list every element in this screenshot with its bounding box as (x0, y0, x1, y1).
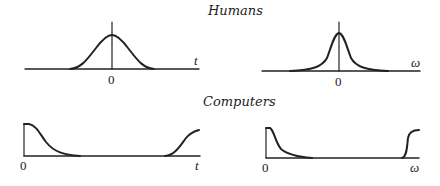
computers-time-origin-label: 0 (20, 158, 27, 174)
computers-time-plot (24, 124, 200, 156)
humans-freq-origin-label: 0 (335, 74, 342, 90)
humans-time-origin-label: 0 (108, 72, 115, 88)
computers-time-axis-label: t (195, 158, 199, 174)
humans-freq-plot (262, 22, 420, 71)
computers-title: Computers (203, 94, 276, 109)
computers-freq-curve-right (402, 130, 419, 158)
humans-time-axis-label: t (194, 53, 198, 69)
computers-freq-plot (266, 128, 419, 158)
humans-time-plot (25, 22, 199, 69)
humans-freq-axis-label: ω (411, 55, 420, 71)
figure: Humans Computers 0 t 0 ω 0 t 0 ω (0, 0, 440, 186)
computers-freq-axis-label: ω (410, 160, 419, 176)
plots (0, 0, 440, 186)
computers-freq-curve-left (266, 128, 312, 158)
computers-freq-origin-label: 0 (262, 160, 269, 176)
computers-time-curve-right (165, 130, 199, 156)
computers-time-curve-left (24, 124, 80, 156)
humans-title: Humans (208, 3, 263, 18)
